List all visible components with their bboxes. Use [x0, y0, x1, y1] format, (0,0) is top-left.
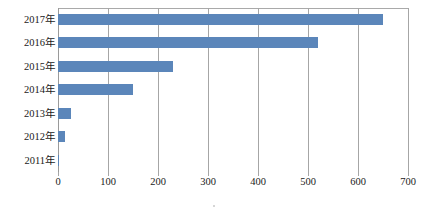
x-tick-label: 700: [400, 176, 416, 187]
bar: [58, 155, 59, 166]
y-category-label: 2011年: [1, 155, 55, 166]
x-tick-label: 0: [55, 176, 60, 187]
x-tick-label: 500: [300, 176, 316, 187]
x-axis-tick-labels: 0100200300400500600700: [58, 176, 408, 196]
y-category-label: 2013年: [1, 108, 55, 119]
bar: [58, 131, 65, 142]
bar-row: [58, 149, 408, 172]
y-category-label: 2014年: [1, 84, 55, 95]
y-category-label: 2016年: [1, 37, 55, 48]
bar-row: [58, 8, 408, 31]
y-axis-category-labels: 2017年2016年2015年2014年2013年2012年2011年: [0, 8, 55, 172]
gridline-700: [408, 8, 409, 172]
x-tick-label: 200: [150, 176, 166, 187]
bar-row: [58, 102, 408, 125]
bar: [58, 14, 383, 25]
y-category-label: 2015年: [1, 61, 55, 72]
plot-area: [58, 8, 408, 172]
x-tick-label: 600: [350, 176, 366, 187]
bar: [58, 108, 71, 119]
bar: [58, 61, 173, 72]
bar-chart: 2017年2016年2015年2014年2013年2012年2011年 0100…: [0, 0, 430, 214]
x-tick-label: 100: [100, 176, 116, 187]
scan-speck: [213, 205, 215, 207]
y-category-label: 2017年: [1, 14, 55, 25]
bar: [58, 84, 133, 95]
bar-row: [58, 78, 408, 101]
bar: [58, 37, 318, 48]
x-tick-label: 300: [200, 176, 216, 187]
y-category-label: 2012年: [1, 131, 55, 142]
x-tick-label: 400: [250, 176, 266, 187]
bar-row: [58, 31, 408, 54]
bar-row: [58, 125, 408, 148]
bar-row: [58, 55, 408, 78]
